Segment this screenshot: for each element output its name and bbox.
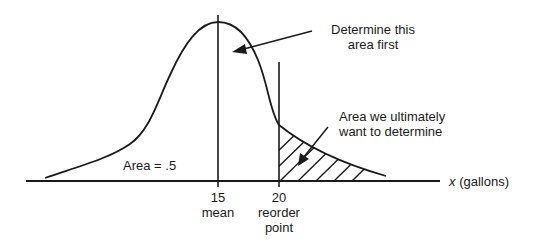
annotation-line: Determine this (318, 22, 428, 37)
first-area-arrow (240, 31, 312, 50)
arrowhead-icon (232, 44, 247, 54)
tick-caption: reorder (249, 205, 309, 220)
x-axis-variable: x (449, 174, 456, 189)
tick-caption: point (249, 220, 309, 235)
annotation-line: want to determine (339, 124, 445, 139)
tick-mean: 15 mean (193, 190, 243, 220)
normal-distribution-diagram: Determine this area first Area we ultima… (0, 0, 537, 251)
annotation-line: Area we ultimately (339, 109, 445, 124)
tick-caption: mean (193, 205, 243, 220)
left-area-label: Area = .5 (123, 158, 176, 173)
x-axis-label: x (gallons) (449, 174, 509, 189)
x-axis-unit: (gallons) (459, 174, 509, 189)
tick-value: 20 (249, 190, 309, 205)
tick-value: 15 (193, 190, 243, 205)
first-area-annotation: Determine this area first (318, 22, 428, 52)
annotation-line: area first (318, 37, 428, 52)
target-area-annotation: Area we ultimately want to determine (339, 109, 445, 139)
tick-reorder-point: 20 reorder point (249, 190, 309, 235)
